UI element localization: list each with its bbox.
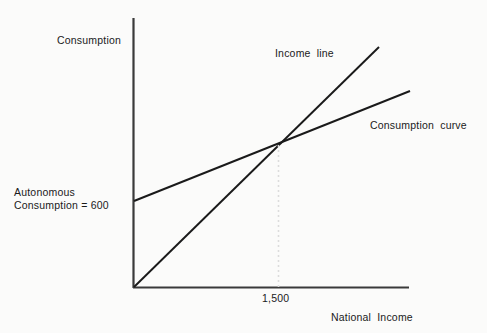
autonomous-consumption-line-1: Autonomous xyxy=(14,186,75,198)
x-axis-title: National Income xyxy=(331,311,413,324)
x-axis-tick-label-1500: 1,500 xyxy=(262,292,289,305)
consumption-curve-label: Consumption curve xyxy=(370,119,467,132)
income-line xyxy=(134,47,379,287)
income-line-label: Income line xyxy=(275,47,334,60)
autonomous-consumption-annotation: AutonomousConsumption = 600 xyxy=(14,186,109,212)
consumption-function-figure: Consumption AutonomousConsumption = 600 … xyxy=(0,0,487,333)
y-axis-title: Consumption xyxy=(57,34,121,47)
plot-area xyxy=(0,0,487,333)
consumption-curve xyxy=(134,91,410,201)
autonomous-consumption-line-2: Consumption = 600 xyxy=(14,199,109,211)
